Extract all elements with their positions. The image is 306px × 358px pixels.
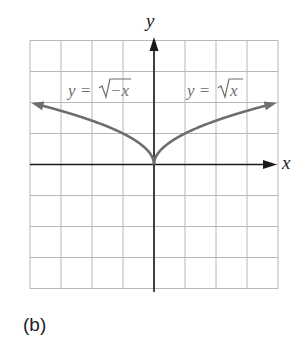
x-axis-label: x <box>281 152 291 173</box>
y-axis-arrow-icon <box>150 37 159 51</box>
figure-caption: (b) <box>23 314 46 336</box>
left-curve-label: y = −x <box>66 79 131 100</box>
right-curve-arrow-icon <box>264 101 277 110</box>
graph: y x y = −x y = x <box>0 0 306 358</box>
x-axis-arrow-icon <box>263 160 277 169</box>
svg-text:x: x <box>229 81 238 100</box>
svg-text:y =: y = <box>185 81 210 100</box>
svg-text:y =: y = <box>66 81 91 100</box>
curve-sqrt-neg-x <box>39 105 154 165</box>
curve-sqrt-x <box>154 105 269 165</box>
svg-text:−x: −x <box>110 81 129 100</box>
right-curve-label: y = x <box>185 79 243 100</box>
left-curve-arrow-icon <box>32 101 45 110</box>
y-axis-label: y <box>144 10 155 31</box>
